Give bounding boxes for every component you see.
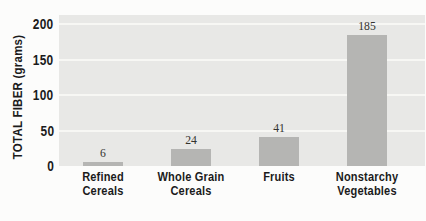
x-category-label: Nonstarchy Vegetables (316, 170, 418, 198)
bar-value-label: 6 (63, 145, 144, 160)
bar-value-label: 41 (239, 120, 320, 135)
bar (259, 137, 299, 166)
bar (83, 162, 123, 166)
total-fiber-bar-chart: TOTAL FIBER (grams) 050100150200 6244118… (0, 0, 426, 221)
y-tick-label-100: 100 (33, 87, 54, 103)
plot-area: 62441185 (59, 15, 425, 166)
bar-slot-2: 24 (171, 15, 211, 166)
bar (347, 35, 387, 166)
bar-slot-1: 6 (83, 15, 123, 166)
x-axis-category-labels: Refined CerealsWhole Grain CerealsFruits… (59, 170, 425, 216)
y-tick-label-150: 150 (33, 52, 54, 68)
y-tick-label-50: 50 (40, 123, 54, 139)
bar-slot-4: 185 (347, 15, 387, 166)
bar-value-label: 185 (327, 18, 408, 33)
x-category-label: Refined Cereals (52, 170, 154, 198)
x-category-label: Whole Grain Cereals (140, 170, 242, 198)
bar (171, 149, 211, 166)
bar-value-label: 24 (151, 132, 232, 147)
y-tick-label-200: 200 (33, 16, 54, 32)
bar-slot-3: 41 (259, 15, 299, 166)
x-category-label: Fruits (228, 170, 330, 184)
y-axis-ticks: 050100150200 (0, 15, 54, 166)
